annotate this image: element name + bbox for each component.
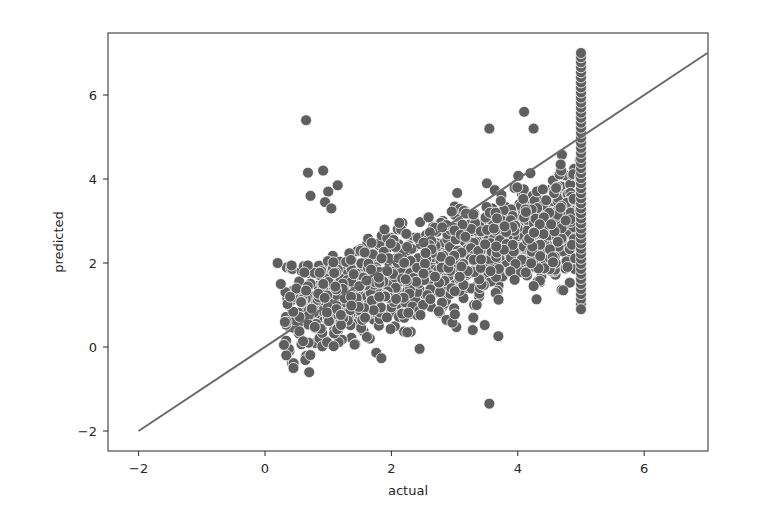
data-point [299, 267, 310, 278]
data-point [556, 149, 567, 160]
data-point [305, 190, 316, 201]
data-point [349, 339, 360, 350]
data-point [399, 257, 410, 268]
data-point [476, 254, 487, 265]
data-point [298, 336, 309, 347]
y-tick-label: 0 [89, 340, 97, 355]
data-point [519, 106, 530, 117]
data-point [547, 257, 558, 268]
data-point [318, 165, 329, 176]
data-point [429, 271, 440, 282]
data-point [551, 183, 562, 194]
data-point [471, 300, 482, 311]
data-point [336, 320, 347, 331]
data-point [359, 247, 370, 258]
y-tick-label: −2 [78, 424, 97, 439]
data-point [379, 224, 390, 235]
data-point [537, 184, 548, 195]
data-point [449, 309, 460, 320]
data-point [281, 350, 292, 361]
data-point [418, 268, 429, 279]
data-point [326, 203, 337, 214]
data-point [485, 266, 496, 277]
data-point [309, 321, 320, 332]
data-point [520, 207, 531, 218]
x-axis: −20246 [129, 451, 648, 476]
data-point [562, 261, 573, 272]
data-point [446, 206, 457, 217]
data-point [493, 294, 504, 305]
data-point [484, 398, 495, 409]
scatter-points [272, 48, 586, 410]
data-point [319, 292, 330, 303]
x-tick-label: 6 [640, 461, 648, 476]
data-point [332, 180, 343, 191]
data-point [419, 258, 430, 269]
data-point [560, 215, 571, 226]
data-point [330, 281, 341, 292]
data-point [546, 219, 557, 230]
data-point [528, 281, 539, 292]
data-point [360, 312, 371, 323]
data-point [279, 317, 290, 328]
data-point [467, 325, 478, 336]
data-point [329, 267, 340, 278]
x-axis-label: actual [388, 483, 428, 498]
data-point [420, 247, 431, 258]
data-point [528, 123, 539, 134]
data-point [529, 227, 540, 238]
data-point [394, 217, 405, 228]
data-point [491, 241, 502, 252]
data-point [272, 258, 283, 269]
data-point [460, 231, 471, 242]
data-point [323, 186, 334, 197]
x-tick-label: 0 [261, 461, 269, 476]
data-point [493, 331, 504, 342]
y-tick-label: 2 [89, 256, 97, 271]
data-point [301, 115, 312, 126]
data-point [555, 159, 566, 170]
data-point [456, 261, 467, 272]
data-point [286, 260, 297, 271]
data-point [414, 343, 425, 354]
data-point [535, 251, 546, 262]
data-point [376, 353, 387, 364]
y-tick-label: 6 [89, 88, 97, 103]
data-point [366, 237, 377, 248]
data-point [301, 285, 312, 296]
data-point [275, 279, 286, 290]
data-point [305, 350, 316, 361]
data-point [552, 236, 563, 247]
data-point [445, 255, 456, 266]
data-point [302, 167, 313, 178]
data-point [509, 274, 520, 285]
data-point [345, 254, 356, 265]
data-point [555, 202, 566, 213]
data-point [480, 239, 491, 250]
data-point [385, 324, 396, 335]
y-tick-label: 4 [89, 172, 97, 187]
data-point [488, 223, 499, 234]
data-point [348, 269, 359, 280]
reference-line [139, 53, 708, 431]
data-point [541, 195, 552, 206]
data-point [381, 312, 392, 323]
data-point [374, 291, 385, 302]
data-point [296, 297, 307, 308]
data-point [402, 327, 413, 338]
data-point [495, 195, 506, 206]
data-point [285, 291, 296, 302]
data-point [484, 123, 495, 134]
data-point [288, 363, 299, 374]
data-point [376, 253, 387, 264]
x-tick-label: 4 [514, 461, 522, 476]
data-point [518, 193, 529, 204]
data-point [403, 307, 414, 318]
data-point [304, 367, 315, 378]
data-point [512, 182, 523, 193]
y-axis: −20246 [78, 88, 108, 439]
data-point [335, 309, 346, 320]
data-point [452, 187, 463, 198]
x-tick-label: 2 [387, 461, 395, 476]
x-tick-label: −2 [129, 461, 148, 476]
